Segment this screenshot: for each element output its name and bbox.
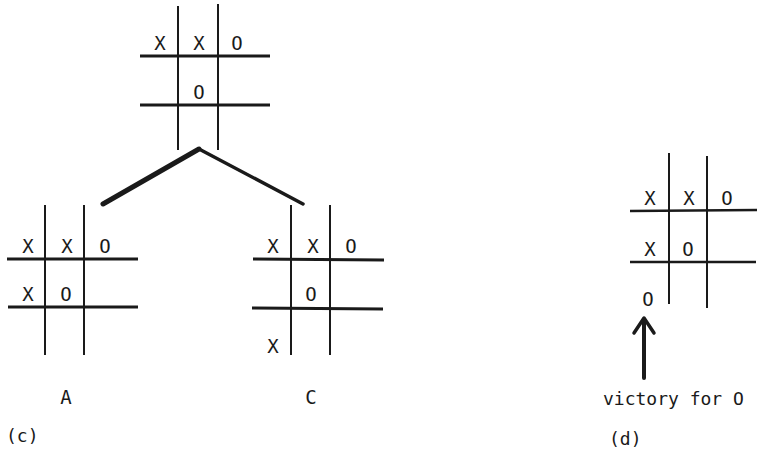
cell-0-1: X [61,235,73,257]
cell-2-0: O [642,288,653,310]
cell-0-0: X [154,32,166,54]
cell-0-2: O [231,32,242,54]
root-board [140,4,270,150]
cell-1-0: X [22,283,34,305]
arrow-up-icon [634,318,654,378]
board-label-a: A [60,386,72,408]
cell-0-2: O [345,235,356,257]
cell-0-1: X [683,187,695,209]
branch-right [199,149,303,204]
child-board-a-marks: X X O X O [22,235,110,305]
child-board-a [7,205,138,355]
cell-1-1: O [682,238,693,260]
cell-0-2: O [721,187,732,209]
cell-2-0: X [267,335,279,357]
child-board-c [252,205,384,355]
victory-label: victory for O [603,388,744,409]
board-d [630,153,757,308]
cell-1-1: O [305,283,316,305]
tree-branches [103,149,303,204]
cell-0-0: X [22,235,34,257]
cell-0-0: X [644,187,656,209]
cell-0-1: X [307,235,319,257]
cell-1-1: O [60,283,71,305]
cell-1-0: X [644,238,656,260]
branch-left [103,149,199,204]
child-board-c-marks: X X O O X [267,235,356,357]
panel-caption-c: (c) [6,425,39,446]
cell-0-1: X [193,32,205,54]
cell-0-2: O [99,235,110,257]
panel-caption-d: (d) [609,428,642,449]
root-board-marks: X X O O [154,32,242,103]
cell-1-1: O [193,81,204,103]
board-d-marks: X X O X O O [642,187,732,310]
game-tree-figure: X X O O X X O X O A X X O O X C (c) [0,0,772,456]
board-label-c: C [305,386,316,408]
cell-0-0: X [267,235,279,257]
